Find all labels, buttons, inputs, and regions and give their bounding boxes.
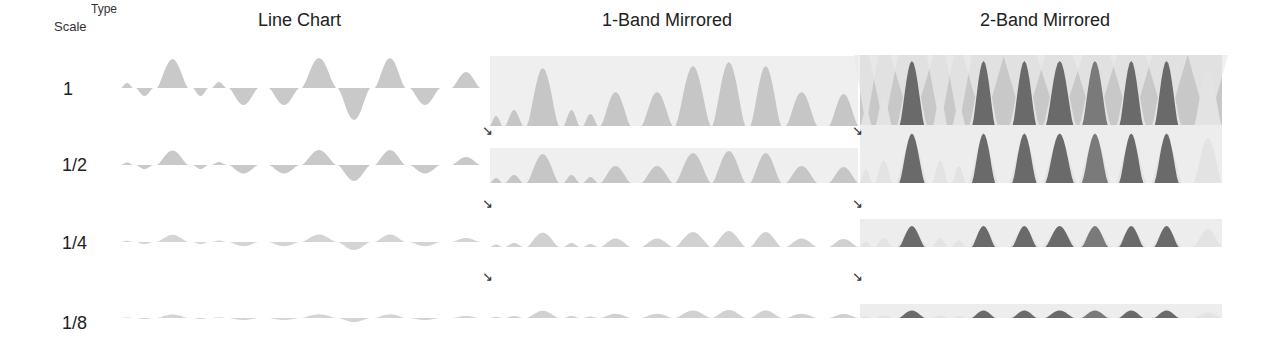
arrow-icon: ↘ — [852, 124, 863, 137]
arrow-icon: ↘ — [482, 124, 493, 137]
horizon-chart-grid — [0, 0, 1273, 352]
arrow-icon: ↘ — [852, 197, 863, 210]
arrow-icon: ↘ — [852, 270, 863, 283]
arrow-icon: ↘ — [482, 270, 493, 283]
arrow-icon: ↘ — [482, 197, 493, 210]
